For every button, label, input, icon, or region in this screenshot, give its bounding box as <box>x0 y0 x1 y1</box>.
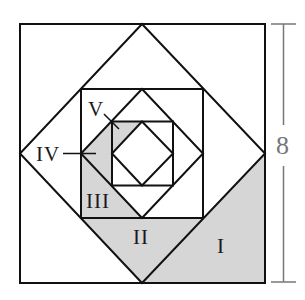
label-II: II <box>133 227 149 248</box>
label-V: V <box>88 99 104 120</box>
label-IV: IV <box>36 144 60 165</box>
diagram: I II III IV V 8 <box>0 0 305 300</box>
label-I: I <box>217 236 225 257</box>
dimension-label: 8 <box>276 133 289 159</box>
label-III: III <box>86 191 110 212</box>
